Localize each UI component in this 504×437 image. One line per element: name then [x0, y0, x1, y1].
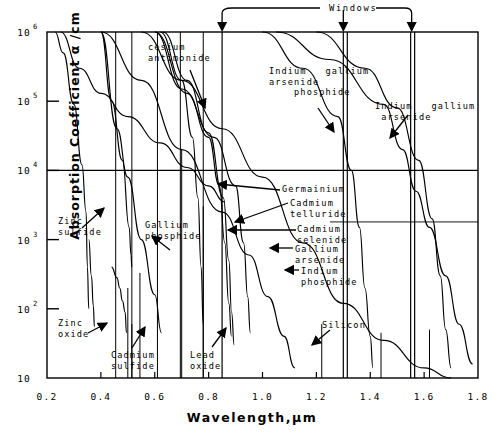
annotation-zinc-oxide-arrow	[88, 323, 107, 333]
svg-text:5: 5	[33, 91, 37, 100]
annotation-gallium-arsenide: Gallium arsenide	[295, 244, 345, 265]
curve	[101, 32, 162, 333]
svg-text:6: 6	[33, 22, 37, 31]
annotation-indium-gallium-arsenide-phosphide: Indium gallium arsenide phosphide	[269, 66, 369, 98]
annotation-lead-oxide-arrow	[212, 328, 226, 347]
y-tick-label: 10	[17, 373, 31, 384]
annotation-germainium-arrow	[218, 184, 280, 190]
x-tick-label: 1.0	[252, 391, 273, 402]
windows-label: Windows	[329, 3, 377, 13]
svg-text:10: 10	[17, 27, 31, 38]
plot-frame	[47, 32, 478, 378]
annotation-lead-oxide: Lead oxide	[190, 350, 221, 371]
x-tick-label: 0.6	[144, 391, 165, 402]
y-tick-label: 102	[17, 299, 37, 315]
annotation-gallium-phosphide: Gallium phosphide	[145, 220, 201, 241]
x-tick-label: 1.6	[414, 391, 435, 402]
svg-text:10: 10	[17, 96, 31, 107]
x-tick-label: 0.2	[37, 391, 58, 402]
annotation-silicon: Silicon	[322, 320, 366, 331]
tick-labels: 0.20.40.60.81.01.21.41.61.81010210310410…	[17, 22, 488, 402]
svg-text:10: 10	[17, 165, 31, 176]
annotation-cesium-antimonide: cesium antimonide	[148, 42, 211, 63]
windows-bracket	[217, 8, 417, 32]
svg-text:10: 10	[17, 235, 31, 246]
x-tick-label: 1.8	[468, 391, 489, 402]
annotation-cadmium-selenide: Cadmium selenide	[297, 224, 347, 245]
annotation-zinc-sulfide: Zinc sulfide	[58, 216, 102, 237]
annotation-cadmium-telluride-arrow	[235, 203, 288, 222]
annotation-silicon-arrow	[312, 330, 330, 345]
svg-text:4: 4	[33, 160, 37, 169]
x-tick-label: 1.4	[360, 391, 381, 402]
curve	[112, 267, 127, 333]
y-tick-label: 103	[17, 230, 37, 246]
annotation-cadmium-telluride: Cadmium telluride	[290, 198, 346, 219]
window-arrow	[217, 22, 227, 32]
svg-text:10: 10	[17, 304, 31, 315]
annotation-cadmium-sulfide: Cadmium sulfide	[111, 350, 155, 371]
svg-text:3: 3	[33, 230, 37, 239]
x-tick-label: 0.4	[90, 391, 111, 402]
annotation-zinc-oxide: Zinc oxide	[58, 318, 89, 339]
svg-text:2: 2	[33, 299, 37, 308]
svg-text:10: 10	[17, 373, 31, 384]
x-tick-label: 0.8	[198, 391, 219, 402]
annotation-arrows	[82, 70, 408, 348]
data-curves	[55, 32, 473, 378]
y-tick-label: 105	[17, 91, 37, 107]
annotation-indium-phosphide: Indium phosphide	[301, 266, 357, 287]
y-tick-label: 104	[17, 160, 37, 176]
curve	[101, 32, 295, 368]
x-tick-label: 1.2	[306, 391, 327, 402]
window-arrow	[338, 22, 348, 32]
curve	[89, 240, 95, 327]
annotation-indium-gallium-arsenide: Indium gallium arsenide	[375, 101, 475, 122]
annotation-indium-gallium-arsenide-phosphide-arrow	[318, 108, 334, 132]
y-tick-label: 106	[17, 22, 37, 38]
axis-ticks	[47, 101, 424, 378]
window-arrow	[407, 22, 417, 32]
annotation-germainium: Germainium	[282, 184, 345, 195]
annotation-cadmium-sulfide-arrow	[132, 327, 145, 348]
reference-line	[47, 170, 478, 222]
chart-figure: Absorption Coefficient α /cm Wavelength,…	[0, 0, 504, 437]
curve	[101, 32, 132, 267]
